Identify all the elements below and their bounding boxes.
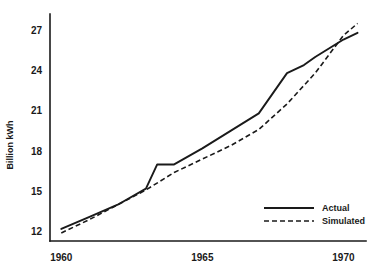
y-tick-label: 12 xyxy=(31,226,43,237)
x-tick-label: 1970 xyxy=(332,252,355,263)
y-axis-title: Billion kWh xyxy=(5,121,15,170)
y-tick-label: 15 xyxy=(31,186,43,197)
x-tick-label: 1960 xyxy=(50,252,73,263)
chart-container: 121518212427 196019651970 Billion kWh Ac… xyxy=(0,0,380,273)
y-tick-label: 18 xyxy=(31,146,43,157)
x-tick-label: 1965 xyxy=(191,252,214,263)
y-tick-label: 24 xyxy=(31,65,43,76)
legend-label-actual: Actual xyxy=(322,203,350,213)
legend-label-simulated: Simulated xyxy=(322,216,365,226)
chart-background xyxy=(0,0,380,273)
y-tick-label: 27 xyxy=(31,25,43,36)
y-tick-label: 21 xyxy=(31,105,43,116)
line-chart: 121518212427 196019651970 Billion kWh Ac… xyxy=(0,0,380,273)
